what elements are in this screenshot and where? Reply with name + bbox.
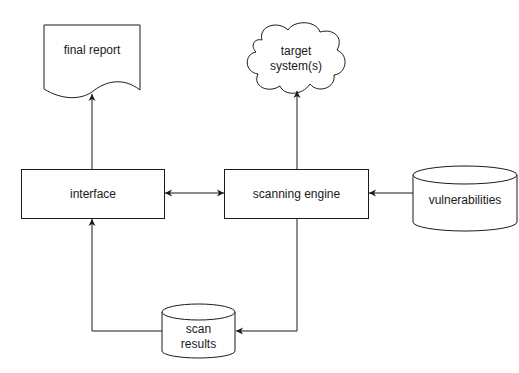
- target-systems-label-line2: system(s): [270, 59, 322, 74]
- final-report-label: final report: [44, 40, 140, 60]
- target-systems-label-line1: target: [281, 44, 312, 59]
- scanning-engine-label: scanning engine: [224, 169, 369, 219]
- scan-results-label-line1: scan: [186, 322, 211, 337]
- vulnerabilities-label: vulnerabilities: [413, 186, 517, 214]
- interface-label: interface: [21, 169, 165, 219]
- target-systems-label: target system(s): [250, 42, 342, 76]
- edge-engine-to-scan-results: [236, 219, 297, 331]
- edge-scan-results-to-interface: [92, 219, 162, 331]
- scan-results-label-line2: results: [181, 337, 216, 352]
- scan-results-label: scan results: [162, 320, 235, 354]
- final-report-shape: [44, 25, 140, 98]
